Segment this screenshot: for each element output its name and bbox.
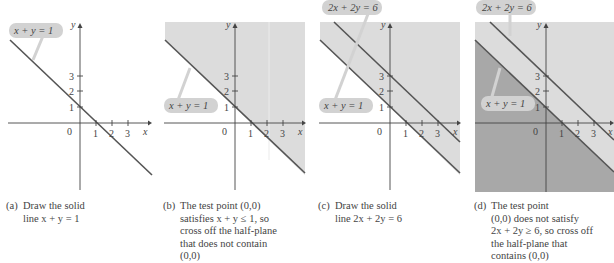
x-tick-1: 1	[93, 128, 98, 139]
y-tick-2: 2	[535, 86, 540, 97]
origin-label: 0	[222, 126, 227, 137]
caption-a: (a) Draw the solid line x + y = 1	[6, 200, 156, 250]
caption-tag: (d)	[474, 200, 486, 213]
caption-line: satisfies x + y ≤ 1, so	[180, 213, 305, 226]
caption-line: Draw the solid	[335, 200, 460, 213]
ticks	[77, 76, 128, 126]
y-tick-2: 2	[379, 86, 384, 97]
x-tick-2: 2	[419, 128, 424, 139]
y-axis-label: y	[380, 19, 386, 30]
y-tick-3: 3	[379, 71, 384, 82]
origin-label: 0	[67, 126, 72, 137]
equation-label-x-plus-y-eq-1: x + y = 1	[13, 25, 53, 36]
caption-line: line 2x + 2y = 6	[335, 213, 460, 226]
x-tick-2: 2	[264, 128, 269, 139]
caption-line: The test point	[491, 200, 614, 213]
caption-line: Draw the solid	[23, 200, 148, 213]
label-pointer	[178, 68, 190, 100]
y-axis-arrow-icon	[78, 23, 83, 28]
x-axis-label: x	[452, 126, 458, 137]
label-pointer	[33, 36, 43, 60]
equation-label-x-plus-y-eq-1: x + y = 1	[323, 100, 363, 111]
caption-line: (0,0)	[180, 250, 305, 263]
caption-line: 2x + 2y ≥ 6, so cross off	[491, 225, 614, 238]
equation-label-x-plus-y-eq-1: x + y = 1	[168, 100, 208, 111]
caption-b: (b) The test point (0,0) satisfies x + y…	[163, 200, 313, 258]
caption-tag: (a)	[6, 200, 18, 213]
x-axis-arrow-icon	[148, 121, 152, 126]
equation-label-x-plus-y-eq-1: x + y = 1	[485, 98, 525, 109]
equation-label-2x-plus-2y-eq-6: 2x + 2y = 6	[328, 2, 378, 13]
panel-a: 0 1 2 3 1 2 3 x y x + y = 1	[8, 19, 152, 190]
x-tick-3: 3	[435, 128, 440, 139]
x-tick-2: 2	[109, 128, 114, 139]
caption-line: line x + y = 1	[23, 213, 148, 226]
y-tick-2: 2	[69, 86, 74, 97]
y-axis-label: y	[536, 19, 542, 30]
x-tick-3: 3	[125, 128, 130, 139]
y-tick-3: 3	[69, 71, 74, 82]
y-axis-label: y	[70, 19, 76, 30]
x-tick-1: 1	[559, 128, 564, 139]
caption-c: (c) Draw the solid line 2x + 2y = 6	[318, 200, 468, 250]
caption-line: (0,0) does not satisfy	[491, 213, 614, 226]
y-tick-1: 1	[535, 102, 540, 113]
caption-line: that does not contain	[180, 238, 305, 251]
caption-line: the half-plane that	[491, 238, 614, 251]
x-tick-1: 1	[403, 128, 408, 139]
caption-tag: (b)	[163, 200, 175, 213]
origin-label: 0	[377, 126, 382, 137]
panel-b: 0 1 2 3 1 2 3 x y x + y = 1	[164, 19, 306, 190]
x-tick-2: 2	[575, 128, 580, 139]
caption-line: cross off the half-plane	[180, 225, 305, 238]
line-x-plus-y-eq-1	[10, 40, 152, 175]
origin-label: 0	[533, 126, 538, 137]
caption-line: contains (0,0)	[491, 250, 614, 263]
caption-tag: (c)	[318, 200, 330, 213]
y-tick-3: 3	[224, 71, 229, 82]
y-tick-2: 2	[224, 86, 229, 97]
y-axis-label: y	[225, 19, 231, 30]
y-tick-3: 3	[535, 71, 540, 82]
x-axis-label: x	[142, 126, 148, 137]
caption-line: The test point (0,0)	[180, 200, 305, 213]
x-axis-label: x	[607, 126, 613, 137]
x-tick-1: 1	[248, 128, 253, 139]
panel-c: 0 1 2 3 1 2 3 x y 2x + 2y = 6 x + y = 1	[319, 0, 461, 190]
y-tick-1: 1	[379, 102, 384, 113]
x-tick-3: 3	[591, 128, 596, 139]
equation-label-2x-plus-2y-eq-6: 2x + 2y = 6	[482, 2, 532, 13]
x-tick-3: 3	[280, 128, 285, 139]
panel-d: 0 1 2 3 1 2 3 x y 2x + 2y = 6 x + y = 1	[475, 0, 614, 192]
x-axis-label: x	[297, 126, 303, 137]
y-tick-1: 1	[224, 102, 229, 113]
y-tick-1: 1	[69, 102, 74, 113]
caption-d: (d) The test point (0,0) does not satisf…	[474, 200, 614, 258]
